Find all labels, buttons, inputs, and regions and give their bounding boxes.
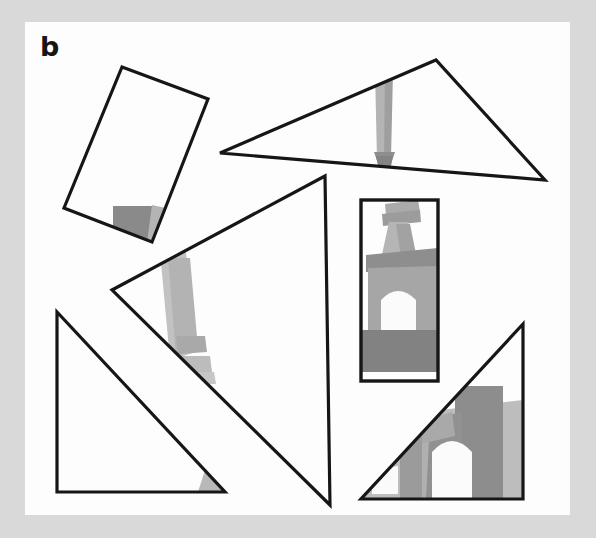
panel-label: b (40, 33, 59, 60)
figure-canvas (0, 0, 596, 538)
figure-panel-b: b (0, 0, 596, 538)
